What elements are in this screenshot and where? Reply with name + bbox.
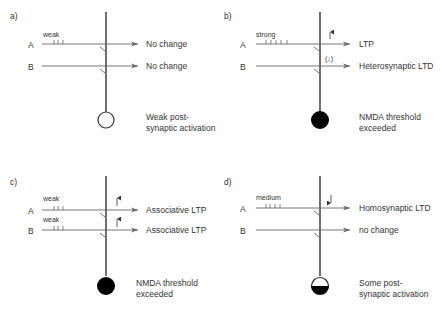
pathway-label: A xyxy=(28,40,34,50)
panel-label: c) xyxy=(10,177,17,187)
stimulus-ticks xyxy=(266,204,280,208)
soma-text: NMDA threshold xyxy=(359,112,421,122)
synaptic-plasticity-diagram: a) A weak No change B No change Weak pos… xyxy=(0,0,443,309)
stimulus-ticks xyxy=(54,226,63,230)
soma-empty xyxy=(98,112,114,128)
stimulus-label: medium xyxy=(256,194,281,201)
pathway-label: A xyxy=(28,206,34,216)
outcome-label: No change xyxy=(146,61,187,71)
outcome-label: No change xyxy=(146,39,187,49)
pathway-label: A xyxy=(240,40,246,50)
panel-a: a) A weak No change B No change Weak pos… xyxy=(10,11,216,133)
soma-filled xyxy=(97,277,115,295)
stimulus-ticks xyxy=(54,40,63,44)
pathway-label: B xyxy=(28,226,34,236)
depression-arrow-icon: (↓) xyxy=(325,55,333,63)
stimulus-ticks xyxy=(266,40,287,44)
synapse-mark xyxy=(100,233,105,237)
soma-text: synaptic activation xyxy=(146,123,216,133)
pathway-label: B xyxy=(240,62,246,72)
outcome-label: LTP xyxy=(359,39,374,49)
outcome-label: Homosynaptic LTD xyxy=(359,203,431,213)
soma-text: Some post- xyxy=(359,278,403,288)
panel-d: d) A medium Homosynaptic LTD B no change… xyxy=(224,176,431,299)
synapse-mark xyxy=(100,47,105,51)
stimulus-label: strong xyxy=(256,31,276,39)
synapse-mark xyxy=(314,211,319,215)
stimulus-label: weak xyxy=(42,195,60,202)
panel-label: a) xyxy=(10,11,18,21)
soma-text: exceeded xyxy=(359,123,396,133)
panel-label: d) xyxy=(224,177,232,187)
panel-b: b) A strong LTP B (↓) Heterosynaptic LTD… xyxy=(224,11,433,133)
panel-label: b) xyxy=(224,11,232,21)
soma-text: exceeded xyxy=(136,289,173,299)
stimulus-label: weak xyxy=(42,31,60,38)
synapse-mark xyxy=(100,69,105,73)
pathway-label: A xyxy=(240,204,246,214)
soma-text: NMDA threshold xyxy=(136,278,198,288)
panel-c: c) A weak Associative LTP B weak Associa… xyxy=(10,176,207,299)
soma-half xyxy=(312,278,329,295)
outcome-label: Associative LTP xyxy=(146,225,207,235)
soma-text: synaptic activation xyxy=(359,289,429,299)
outcome-label: Associative LTP xyxy=(146,205,207,215)
outcome-label: Heterosynaptic LTD xyxy=(359,61,433,71)
synapse-mark xyxy=(100,213,105,217)
stimulus-ticks xyxy=(54,206,63,210)
stimulus-label: weak xyxy=(42,216,60,223)
outcome-label: no change xyxy=(359,225,399,235)
synapse-mark xyxy=(314,47,319,51)
synapse-mark xyxy=(314,233,319,237)
pathway-label: B xyxy=(28,62,34,72)
soma-text: Weak post- xyxy=(146,112,189,122)
pathway-label: B xyxy=(240,226,246,236)
synapse-mark xyxy=(314,69,319,73)
soma-filled xyxy=(311,111,329,129)
